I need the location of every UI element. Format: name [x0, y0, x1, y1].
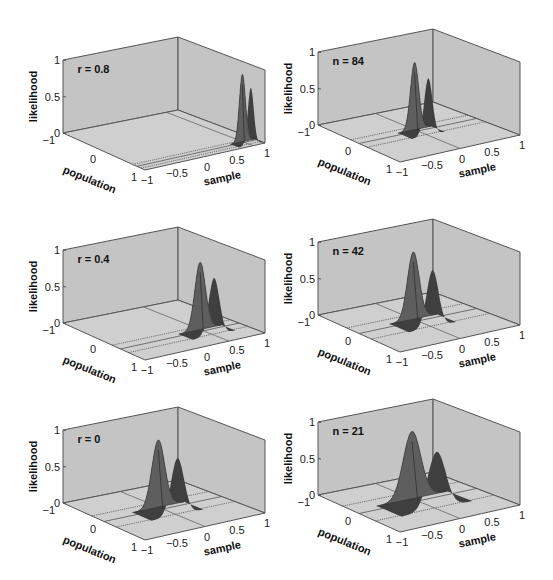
- population-tick-label: −1: [42, 134, 55, 146]
- z-tick-label: 0.5: [300, 453, 315, 465]
- sample-tick-label: 1: [519, 509, 525, 521]
- sample-tick-label: 0: [459, 153, 465, 165]
- sample-tick-label: 1: [264, 517, 270, 529]
- z-tick-label: 0.5: [45, 461, 60, 473]
- population-tick-label: 1: [131, 171, 137, 183]
- z-tick-mark: [318, 495, 321, 496]
- z-tick-label: 1: [54, 244, 60, 256]
- sample-tick-label: −1: [141, 174, 154, 186]
- z-axis-label: likelihood: [27, 71, 39, 122]
- sample-tick-label: 0.5: [484, 336, 499, 348]
- population-tick-label: 0: [90, 343, 96, 355]
- chart-panel-middle-left: 00.51−101−1−0.500.51likelihoodpopulation…: [27, 227, 270, 386]
- z-tick-mark: [63, 323, 66, 324]
- z-tick-mark: [63, 97, 66, 98]
- z-tick-mark: [63, 133, 66, 134]
- z-axis-label: likelihood: [282, 253, 294, 304]
- sample-tick-label: −0.5: [166, 357, 188, 369]
- z-tick-label: 0.5: [300, 273, 315, 285]
- panel-annotation: n = 42: [332, 245, 364, 257]
- population-tick-label: 1: [386, 533, 392, 545]
- z-tick-mark: [63, 250, 66, 251]
- population-tick-label: 0: [345, 145, 351, 157]
- population-tick-label: −1: [297, 496, 310, 508]
- sample-tick-label: 0: [459, 343, 465, 355]
- z-tick-label: 1: [54, 424, 60, 436]
- population-axis-label: population: [316, 345, 373, 377]
- z-tick-label: 0.5: [300, 83, 315, 95]
- population-tick-label: 0: [90, 523, 96, 535]
- sample-tick-label: 0: [204, 531, 210, 543]
- panel-annotation: n = 84: [332, 55, 364, 67]
- z-tick-label: 0.5: [45, 281, 60, 293]
- z-axis-label: likelihood: [282, 433, 294, 484]
- sample-tick-label: 1: [519, 139, 525, 151]
- sample-tick-label: −0.5: [166, 537, 188, 549]
- sample-tick-label: 0: [204, 351, 210, 363]
- chart-panel-bottom-left: 00.51−101−1−0.500.51likelihoodpopulation…: [27, 407, 270, 566]
- population-tick-label: 1: [386, 353, 392, 365]
- population-axis-label: population: [316, 525, 373, 557]
- figure: 00.51−101−1−0.500.51likelihoodpopulation…: [0, 0, 553, 580]
- population-tick-label: 1: [131, 541, 137, 553]
- population-tick-label: 0: [345, 515, 351, 527]
- population-tick-label: −1: [42, 324, 55, 336]
- sample-tick-label: 1: [264, 147, 270, 159]
- sample-tick-label: 1: [519, 329, 525, 341]
- sample-tick-label: −0.5: [166, 167, 188, 179]
- chart-panel-bottom-right: 00.51−101−1−0.500.51likelihoodpopulation…: [282, 399, 525, 558]
- z-tick-mark: [63, 60, 66, 61]
- z-tick-label: 1: [309, 46, 315, 58]
- population-tick-label: 1: [131, 361, 137, 373]
- z-tick-mark: [63, 503, 66, 504]
- z-tick-label: 0.5: [45, 91, 60, 103]
- z-tick-mark: [318, 279, 321, 280]
- sample-tick-label: −1: [141, 364, 154, 376]
- chart-panel-top-right: 00.51−101−1−0.500.51likelihoodpopulation…: [282, 29, 525, 188]
- population-tick-label: −1: [297, 316, 310, 328]
- panel-annotation: n = 21: [332, 425, 364, 437]
- population-tick-label: 0: [90, 153, 96, 165]
- z-tick-mark: [318, 459, 321, 460]
- panel-annotation: r = 0.8: [77, 63, 109, 75]
- sample-tick-label: 0.5: [229, 154, 244, 166]
- population-axis-label: population: [61, 163, 118, 195]
- sample-tick-label: −1: [141, 544, 154, 556]
- z-tick-mark: [63, 287, 66, 288]
- sample-tick-label: 1: [264, 337, 270, 349]
- population-axis-label: population: [316, 155, 373, 187]
- sample-tick-label: −0.5: [421, 159, 443, 171]
- z-tick-label: 1: [309, 236, 315, 248]
- sample-tick-label: 0.5: [484, 516, 499, 528]
- population-tick-label: 0: [345, 335, 351, 347]
- z-tick-label: 1: [309, 416, 315, 428]
- sample-tick-label: 0: [204, 161, 210, 173]
- z-tick-mark: [318, 125, 321, 126]
- z-tick-mark: [318, 89, 321, 90]
- chart-panel-middle-right: 00.51−101−1−0.500.51likelihoodpopulation…: [282, 219, 525, 378]
- panel-annotation: r = 0.4: [77, 253, 110, 265]
- population-axis-label: population: [61, 533, 118, 565]
- sample-tick-label: −0.5: [421, 349, 443, 361]
- sample-tick-label: −1: [396, 536, 409, 548]
- sample-tick-label: −1: [396, 166, 409, 178]
- z-axis-label: likelihood: [282, 63, 294, 114]
- z-tick-label: 1: [54, 54, 60, 66]
- sample-tick-label: 0.5: [484, 146, 499, 158]
- population-tick-label: −1: [42, 504, 55, 516]
- population-axis-label: population: [61, 353, 118, 385]
- population-tick-label: −1: [297, 126, 310, 138]
- sample-tick-label: 0.5: [229, 524, 244, 536]
- sample-tick-label: −0.5: [421, 529, 443, 541]
- z-tick-mark: [63, 467, 66, 468]
- sample-tick-label: 0.5: [229, 344, 244, 356]
- sample-tick-label: 0: [459, 523, 465, 535]
- chart-panel-top-left: 00.51−101−1−0.500.51likelihoodpopulation…: [27, 37, 270, 196]
- z-tick-mark: [318, 422, 321, 423]
- population-tick-label: 1: [386, 163, 392, 175]
- panel-annotation: r = 0: [77, 433, 100, 445]
- z-axis-label: likelihood: [27, 261, 39, 312]
- sample-tick-label: −1: [396, 356, 409, 368]
- z-axis-label: likelihood: [27, 441, 39, 492]
- z-tick-mark: [318, 315, 321, 316]
